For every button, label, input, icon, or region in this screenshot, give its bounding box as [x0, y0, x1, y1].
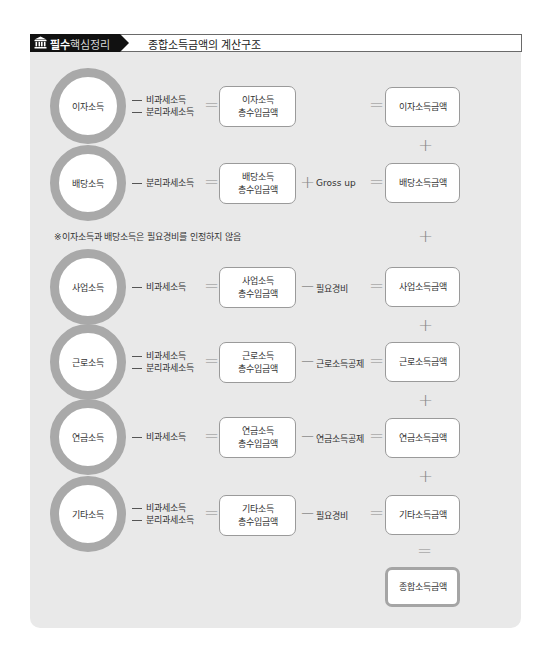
equals-icon: =: [204, 504, 219, 522]
plus-icon: +: [418, 391, 433, 409]
result-label: 기타소득금액: [399, 509, 447, 522]
result-label: 근로소득금액: [399, 356, 447, 369]
page-title: 종합소득금액의 계산구조: [148, 36, 262, 52]
minus-icon: [132, 368, 142, 370]
gross-income-box: 이자소득총수입금액: [219, 86, 296, 127]
header-title-bar: 종합소득금액의 계산구조: [118, 34, 522, 52]
result-label: 이자소득금액: [399, 101, 447, 114]
deduction-list: 분리과세소득: [132, 177, 194, 189]
minus-icon: −: [300, 427, 315, 445]
gross-line2: 총수입금액: [238, 438, 278, 451]
income-label: 이자소득: [72, 100, 104, 113]
adjustment-label: 연금소득공제: [316, 432, 364, 445]
footnote: ※이자소득과 배당소득은 필요경비를 인정하지 않음: [54, 230, 241, 243]
minus-icon: −: [300, 504, 315, 522]
result-label: 연금소득금액: [399, 432, 447, 445]
result-box: 연금소득금액: [385, 418, 460, 458]
section-header: 종합소득금액의 계산구조 필수핵심정리: [30, 34, 522, 52]
plus-icon: +: [418, 316, 433, 334]
result-box: 이자소득금액: [385, 87, 460, 127]
equals-icon: =: [204, 96, 219, 114]
total-income-box: 종합소득금액: [385, 567, 460, 607]
gross-line2: 총수입금액: [238, 363, 278, 376]
adjustment-label: 필요경비: [316, 509, 348, 522]
plus-icon: +: [418, 227, 433, 245]
income-label: 사업소득: [72, 281, 104, 294]
minus-icon: [132, 183, 142, 185]
deduction-list: 비과세소득 분리과세소득: [132, 94, 194, 118]
deduction-list: 비과세소득 분리과세소득: [132, 502, 194, 526]
deduction-item: 분리과세소득: [146, 515, 194, 525]
equals-icon: =: [417, 542, 432, 560]
result-box: 배당소득금액: [385, 163, 460, 203]
deduction-item: 비과세소득: [146, 351, 186, 361]
equals-icon: =: [204, 277, 219, 295]
minus-icon: [132, 520, 142, 522]
gross-line2: 총수입금액: [238, 107, 278, 120]
income-circle-business: 사업소득: [50, 249, 126, 325]
gross-line1: 이자소득: [242, 94, 274, 107]
income-label: 배당소득: [72, 177, 104, 190]
equals-icon: =: [369, 504, 384, 522]
deduction-item: 비과세소득: [146, 95, 186, 105]
gross-income-box: 연금소득총수입금액: [219, 417, 296, 458]
minus-icon: [132, 100, 142, 102]
header-tag: 필수핵심정리: [30, 34, 120, 52]
equals-icon: =: [369, 96, 384, 114]
equals-icon: =: [369, 173, 384, 191]
minus-icon: −: [300, 352, 315, 370]
deduction-list: 비과세소득: [132, 281, 186, 293]
plus-icon: +: [300, 173, 315, 191]
tag-bold-text: 필수: [50, 39, 70, 52]
minus-icon: [132, 437, 142, 439]
equals-icon: =: [204, 173, 219, 191]
adjustment-label: 근로소득공제: [316, 357, 364, 370]
equals-icon: =: [369, 277, 384, 295]
total-label: 종합소득금액: [399, 581, 447, 594]
deduction-item: 비과세소득: [146, 282, 186, 292]
equals-icon: =: [204, 427, 219, 445]
result-box: 사업소득금액: [385, 267, 460, 307]
income-label: 근로소득: [72, 356, 104, 369]
income-circle-pension: 연금소득: [50, 399, 126, 475]
gross-income-box: 근로소득총수입금액: [219, 342, 296, 383]
equals-icon: =: [369, 427, 384, 445]
header-tag-label: 필수핵심정리: [50, 36, 110, 52]
income-circle-other: 기타소득: [50, 476, 126, 552]
income-label: 연금소득: [72, 431, 104, 444]
deduction-item: 분리과세소득: [146, 178, 194, 188]
income-circle-interest: 이자소득: [50, 68, 126, 144]
equals-icon: =: [204, 352, 219, 370]
bank-building-icon: [34, 36, 47, 49]
gross-line2: 총수입금액: [238, 288, 278, 301]
deduction-list: 비과세소득: [132, 431, 186, 443]
deduction-item: 분리과세소득: [146, 363, 194, 373]
equals-icon: =: [369, 352, 384, 370]
plus-icon: +: [418, 467, 433, 485]
result-box: 기타소득금액: [385, 495, 460, 535]
deduction-item: 비과세소득: [146, 503, 186, 513]
gross-line2: 총수입금액: [238, 516, 278, 529]
minus-icon: [132, 508, 142, 510]
income-circle-dividend: 배당소득: [50, 145, 126, 221]
income-circle-employment: 근로소득: [50, 324, 126, 400]
income-label: 기타소득: [72, 508, 104, 521]
gross-line1: 기타소득: [242, 503, 274, 516]
tag-light-text: 핵심정리: [70, 39, 110, 52]
minus-icon: −: [300, 277, 315, 295]
adjustment-label: 필요경비: [316, 282, 348, 295]
result-box: 근로소득금액: [385, 342, 460, 382]
gross-line2: 총수입금액: [238, 184, 278, 197]
result-label: 배당소득금액: [399, 177, 447, 190]
result-label: 사업소득금액: [399, 281, 447, 294]
minus-icon: [132, 356, 142, 358]
minus-icon: [132, 287, 142, 289]
gross-line1: 연금소득: [242, 425, 274, 438]
gross-income-box: 기타소득총수입금액: [219, 495, 296, 536]
deduction-item: 분리과세소득: [146, 107, 194, 117]
gross-income-box: 사업소득총수입금액: [219, 267, 296, 308]
gross-line1: 배당소득: [242, 171, 274, 184]
gross-line1: 사업소득: [242, 275, 274, 288]
plus-icon: +: [418, 136, 433, 154]
adjustment-label: Gross up: [316, 178, 356, 188]
